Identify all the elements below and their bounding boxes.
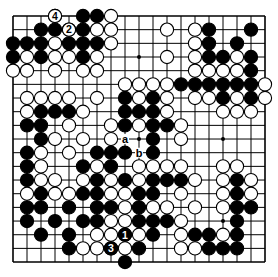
black-stone <box>62 105 75 118</box>
black-stone <box>6 50 19 63</box>
white-stone <box>20 64 33 77</box>
black-stone <box>202 78 215 91</box>
white-stone <box>174 119 187 132</box>
white-stone <box>216 105 229 118</box>
letter-mark: a <box>122 133 129 145</box>
white-stone <box>20 91 33 104</box>
white-stone <box>174 132 187 145</box>
white-stone <box>216 201 229 214</box>
white-stone <box>174 228 187 241</box>
white-stone <box>132 91 145 104</box>
white-stone <box>230 64 243 77</box>
black-stone <box>118 119 131 132</box>
black-stone <box>244 91 257 104</box>
white-stone <box>118 78 131 91</box>
white-stone <box>104 173 117 186</box>
black-stone <box>244 64 257 77</box>
black-stone <box>118 146 131 159</box>
white-stone <box>62 187 75 200</box>
move-number: 1 <box>122 229 128 241</box>
white-stone <box>48 37 61 50</box>
black-stone <box>160 119 173 132</box>
white-stone <box>160 201 173 214</box>
white-stone <box>118 214 131 227</box>
black-stone <box>62 37 75 50</box>
black-stone <box>230 228 243 241</box>
black-stone <box>104 201 117 214</box>
white-stone <box>62 119 75 132</box>
white-stone <box>48 50 61 63</box>
black-stone <box>34 187 47 200</box>
white-stone <box>90 50 103 63</box>
star-point <box>221 219 225 223</box>
white-stone <box>188 91 201 104</box>
white-stone <box>104 23 117 36</box>
black-stone <box>34 23 47 36</box>
black-stone <box>230 37 243 50</box>
black-stone <box>146 132 159 145</box>
black-stone <box>146 119 159 132</box>
white-stone <box>62 146 75 159</box>
white-stone <box>132 228 145 241</box>
white-stone <box>118 242 131 255</box>
black-stone <box>20 201 33 214</box>
white-stone <box>230 105 243 118</box>
black-stone <box>62 201 75 214</box>
white-stone <box>62 50 75 63</box>
black-stone <box>90 9 103 22</box>
white-stone <box>160 50 173 63</box>
white-stone <box>174 160 187 173</box>
white-stone <box>20 50 33 63</box>
black-stone <box>62 242 75 255</box>
white-stone <box>216 187 229 200</box>
black-stone <box>48 105 61 118</box>
white-stone <box>188 37 201 50</box>
black-stone <box>20 37 33 50</box>
white-stone <box>216 173 229 186</box>
black-stone <box>216 242 229 255</box>
white-stone <box>34 173 47 186</box>
white-stone <box>188 50 201 63</box>
black-stone <box>202 37 215 50</box>
white-stone <box>76 105 89 118</box>
white-stone <box>90 228 103 241</box>
white-stone <box>48 91 61 104</box>
black-stone <box>48 23 61 36</box>
black-stone <box>34 37 47 50</box>
letter-mark: b <box>136 147 143 159</box>
white-stone <box>132 119 145 132</box>
black-stone <box>146 214 159 227</box>
white-stone <box>160 91 173 104</box>
white-stone <box>146 78 159 91</box>
white-stone <box>104 132 117 145</box>
white-stone <box>132 78 145 91</box>
white-stone <box>90 242 103 255</box>
black-stone <box>34 50 47 63</box>
black-stone <box>230 187 243 200</box>
black-stone <box>20 214 33 227</box>
white-stone <box>104 214 117 227</box>
black-stone <box>20 173 33 186</box>
black-stone <box>76 9 89 22</box>
white-stone <box>258 91 271 104</box>
black-stone <box>244 201 257 214</box>
black-stone <box>216 78 229 91</box>
white-stone <box>160 160 173 173</box>
black-stone <box>118 105 131 118</box>
black-stone <box>202 228 215 241</box>
black-stone <box>6 37 19 50</box>
white-stone <box>104 119 117 132</box>
black-stone <box>34 228 47 241</box>
black-stone <box>202 23 215 36</box>
black-stone <box>244 23 257 36</box>
black-stone <box>160 214 173 227</box>
black-stone <box>188 78 201 91</box>
white-stone <box>48 132 61 145</box>
white-stone <box>188 173 201 186</box>
white-stone <box>216 64 229 77</box>
black-stone <box>76 50 89 63</box>
white-stone <box>174 242 187 255</box>
black-stone <box>174 78 187 91</box>
black-stone <box>132 105 145 118</box>
white-stone <box>90 91 103 104</box>
